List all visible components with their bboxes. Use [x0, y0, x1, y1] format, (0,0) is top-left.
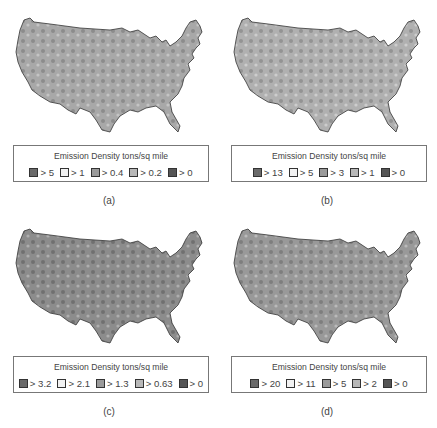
- legend-swatch: [319, 168, 328, 177]
- panel-caption: (a): [0, 195, 218, 206]
- legend-label: > 5: [333, 378, 347, 389]
- legend-swatch: [286, 379, 295, 388]
- legend-label: > 1: [361, 167, 375, 178]
- legend-item: > 11: [286, 378, 315, 389]
- legend-item: > 0: [381, 167, 406, 178]
- legend-label: > 0: [190, 378, 204, 389]
- legend-label: > 20: [261, 378, 280, 389]
- legend-item: > 0.63: [135, 378, 173, 389]
- legend-item: > 2: [352, 378, 377, 389]
- panel-a: Emission Density tons/sq mile > 5> 1> 0.…: [0, 0, 218, 214]
- legend-item: > 0: [179, 378, 204, 389]
- legend-swatch: [250, 379, 259, 388]
- legend-swatch: [179, 379, 188, 388]
- legend-label: > 2: [363, 378, 377, 389]
- legend-label: > 1: [71, 167, 85, 178]
- legend-label: > 2.1: [68, 378, 90, 389]
- legend-label: > 5: [300, 167, 314, 178]
- legend-label: > 11: [297, 378, 315, 389]
- legend-item: > 5: [29, 167, 54, 178]
- us-emission-map: [228, 219, 428, 347]
- legend-item: > 13: [253, 167, 283, 178]
- legend-box: Emission Density tons/sq mile > 20> 11> …: [231, 356, 427, 393]
- panel-d: Emission Density tons/sq mile > 20> 11> …: [218, 211, 436, 425]
- legend-swatch: [19, 379, 28, 388]
- legend-items: > 13> 5> 3> 1> 0: [232, 167, 426, 178]
- panel-caption: (d): [218, 406, 436, 417]
- legend-swatch: [350, 168, 359, 177]
- legend-box: Emission Density tons/sq mile > 3.2> 2.1…: [13, 356, 209, 393]
- legend-swatch: [91, 168, 100, 177]
- legend-swatch: [352, 379, 361, 388]
- legend-items: > 3.2> 2.1> 1.3> 0.63> 0: [14, 378, 208, 389]
- legend-items: > 5> 1> 0.4> 0.2> 0: [14, 167, 208, 178]
- us-emission-map: [10, 219, 210, 347]
- legend-label: > 3.2: [30, 378, 52, 389]
- legend-label: > 3: [330, 167, 344, 178]
- legend-item: > 3: [319, 167, 344, 178]
- legend-swatch: [129, 168, 138, 177]
- legend-item: > 0.4: [91, 167, 124, 178]
- legend-label: > 13: [264, 167, 283, 178]
- legend-item: > 0.2: [129, 167, 162, 178]
- legend-item: > 2.1: [57, 378, 90, 389]
- legend-swatch: [322, 379, 331, 388]
- legend-item: > 20: [250, 378, 280, 389]
- legend-box: Emission Density tons/sq mile > 5> 1> 0.…: [13, 145, 209, 182]
- legend-label: > 1.3: [107, 378, 129, 389]
- legend-item: > 0: [168, 167, 193, 178]
- legend-title: Emission Density tons/sq mile: [14, 362, 208, 372]
- legend-box: Emission Density tons/sq mile > 13> 5> 3…: [231, 145, 427, 182]
- legend-item: > 5: [322, 378, 347, 389]
- legend-title: Emission Density tons/sq mile: [232, 151, 426, 161]
- legend-label: > 5: [40, 167, 54, 178]
- legend-items: > 20> 11> 5> 2> 0: [232, 378, 426, 389]
- legend-label: > 0: [394, 378, 408, 389]
- legend-title: Emission Density tons/sq mile: [14, 151, 208, 161]
- panel-caption: (b): [218, 195, 436, 206]
- us-emission-map: [228, 8, 428, 136]
- legend-swatch: [168, 168, 177, 177]
- legend-swatch: [383, 379, 392, 388]
- legend-swatch: [57, 379, 66, 388]
- legend-label: > 0.63: [146, 378, 173, 389]
- legend-swatch: [253, 168, 262, 177]
- us-emission-map: [10, 8, 210, 136]
- legend-swatch: [96, 379, 105, 388]
- legend-swatch: [289, 168, 298, 177]
- legend-item: > 5: [289, 167, 314, 178]
- legend-item: > 1: [60, 167, 85, 178]
- panel-b: Emission Density tons/sq mile > 13> 5> 3…: [218, 0, 436, 214]
- panel-c: Emission Density tons/sq mile > 3.2> 2.1…: [0, 211, 218, 425]
- legend-swatch: [135, 379, 144, 388]
- legend-swatch: [60, 168, 69, 177]
- legend-item: > 3.2: [19, 378, 52, 389]
- legend-item: > 1.3: [96, 378, 129, 389]
- legend-item: > 0: [383, 378, 408, 389]
- legend-swatch: [381, 168, 390, 177]
- legend-label: > 0.2: [140, 167, 162, 178]
- legend-label: > 0.4: [102, 167, 124, 178]
- panel-caption: (c): [0, 406, 218, 417]
- legend-title: Emission Density tons/sq mile: [232, 362, 426, 372]
- legend-label: > 0: [179, 167, 193, 178]
- legend-swatch: [29, 168, 38, 177]
- legend-item: > 1: [350, 167, 375, 178]
- legend-label: > 0: [392, 167, 406, 178]
